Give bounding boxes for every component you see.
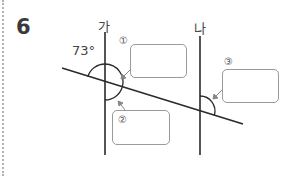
marker-1: ① <box>119 36 128 46</box>
answer-box-2[interactable]: ② <box>112 110 170 145</box>
line-label-ga: 가 <box>98 19 110 34</box>
angle-73-arc <box>88 64 105 77</box>
marker-2: ② <box>118 115 127 125</box>
angle-73-label: 73° <box>72 43 95 58</box>
line-label-na: 나 <box>194 21 206 36</box>
marker-3: ③ <box>224 57 233 67</box>
answer-box-1[interactable] <box>130 44 187 78</box>
angle-2-arc <box>105 87 122 100</box>
arrow-2-head <box>118 101 123 106</box>
answer-box-3[interactable] <box>222 69 279 103</box>
